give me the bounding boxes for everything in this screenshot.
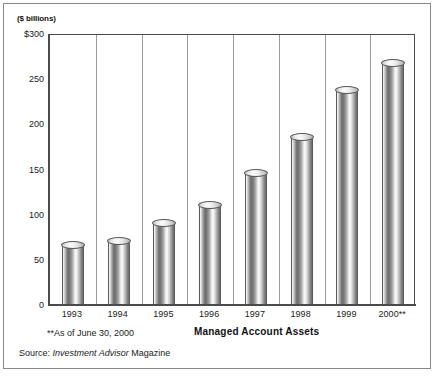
y-axis-tick-label: 0 <box>39 300 44 310</box>
bar-top-ellipse <box>335 86 359 94</box>
bar-top-ellipse <box>198 201 222 209</box>
bar-body <box>153 223 175 304</box>
source-prefix: Source: <box>19 348 53 358</box>
bar-body <box>291 137 313 304</box>
bar-column[interactable] <box>96 241 142 304</box>
y-axis-tick-label: 200 <box>29 119 44 129</box>
bar-column[interactable] <box>187 205 233 304</box>
bar-cylinder[interactable] <box>291 137 313 304</box>
bar-body <box>245 173 267 304</box>
bar-cylinder[interactable] <box>199 205 221 304</box>
bar-top-ellipse <box>107 237 131 245</box>
bar-cylinder[interactable] <box>336 90 358 304</box>
bar-column[interactable] <box>370 63 416 304</box>
footnote-text: **As of June 30, 2000 <box>47 328 134 338</box>
source-text: Source: Investment Advisor Magazine <box>19 348 170 358</box>
chart-figure: ($ billions) 050100150200250$300 Managed… <box>3 3 431 369</box>
bar-cylinder[interactable] <box>108 241 130 304</box>
y-axis-tick-labels: 050100150200250$300 <box>4 34 44 305</box>
bar-column[interactable] <box>279 137 325 304</box>
bar-body <box>336 90 358 304</box>
bar-top-ellipse <box>381 59 405 67</box>
x-axis-line <box>48 304 416 306</box>
x-axis-tick-label: 1997 <box>232 309 278 319</box>
bar-top-ellipse <box>244 169 268 177</box>
bar-cylinder[interactable] <box>62 245 84 304</box>
bar-body <box>199 205 221 304</box>
bar-top-ellipse <box>152 219 176 227</box>
source-suffix: Magazine <box>129 348 171 358</box>
source-publication: Investment Advisor <box>53 348 129 358</box>
bar-column[interactable] <box>325 90 371 304</box>
y-axis-tick-label: 50 <box>34 255 44 265</box>
bar-top-ellipse <box>290 133 314 141</box>
x-axis-tick-label: 1994 <box>95 309 141 319</box>
x-axis-tick-label: 2000** <box>369 309 415 319</box>
x-axis-tick-label: 1999 <box>324 309 370 319</box>
x-axis-tick-label: 1993 <box>49 309 95 319</box>
y-axis-units-label: ($ billions) <box>17 14 56 23</box>
bar-column[interactable] <box>50 245 96 304</box>
y-axis-tick-label: 100 <box>29 210 44 220</box>
bar-cylinder[interactable] <box>153 223 175 304</box>
y-axis-tick-label: $300 <box>24 29 44 39</box>
bar-body <box>62 245 84 304</box>
x-axis-tick-label: 1996 <box>186 309 232 319</box>
x-axis-tick-label: 1995 <box>141 309 187 319</box>
bar-body <box>108 241 130 304</box>
x-axis-tick-label: 1998 <box>278 309 324 319</box>
bar-cylinder[interactable] <box>245 173 267 304</box>
x-axis-title: Managed Account Assets <box>194 326 319 337</box>
bar-body <box>382 63 404 304</box>
y-axis-line <box>48 34 50 306</box>
bar-cylinder[interactable] <box>382 63 404 304</box>
bar-column[interactable] <box>233 173 279 304</box>
y-axis-tick-label: 150 <box>29 165 44 175</box>
y-axis-tick-label: 250 <box>29 74 44 84</box>
bar-column[interactable] <box>142 223 188 304</box>
plot-area <box>49 34 415 305</box>
